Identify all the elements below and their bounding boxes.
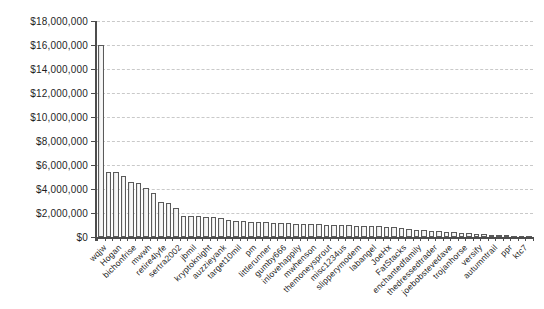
y-tick-label: $10,000,000 [0, 112, 88, 123]
bar [248, 222, 254, 237]
bar [286, 223, 292, 237]
bar [376, 226, 382, 237]
bar [354, 226, 360, 237]
bar [218, 218, 224, 237]
y-tick-label: $8,000,000 [0, 136, 88, 147]
bar [181, 216, 187, 237]
bar [233, 221, 239, 237]
gridline [97, 21, 533, 22]
gridline [97, 165, 533, 166]
bar [173, 208, 179, 237]
gridline [97, 69, 533, 70]
bar [406, 229, 412, 237]
y-tick-label: $16,000,000 [0, 40, 88, 51]
bar [106, 172, 112, 237]
bar [256, 222, 262, 237]
bar [166, 203, 172, 237]
bar [128, 182, 134, 237]
y-tick-label: $14,000,000 [0, 64, 88, 75]
gridline [97, 117, 533, 118]
bar [143, 188, 149, 237]
y-tick-label: $12,000,000 [0, 88, 88, 99]
bar [384, 227, 390, 237]
gridline [97, 141, 533, 142]
bar [421, 230, 427, 237]
bar [196, 216, 202, 237]
bar [316, 224, 322, 237]
x-axis-tick [533, 237, 534, 241]
bar [271, 223, 277, 237]
bar [346, 225, 352, 237]
bar [158, 202, 164, 237]
y-axis-line [95, 21, 97, 241]
bar [293, 224, 299, 237]
bar [211, 217, 217, 237]
bar [414, 230, 420, 237]
bar [369, 226, 375, 237]
y-tick-label: $0 [0, 232, 88, 243]
bar [278, 223, 284, 237]
bar [121, 176, 127, 237]
bar [391, 227, 397, 237]
y-tick-label: $2,000,000 [0, 208, 88, 219]
bar [188, 216, 194, 237]
bar [263, 222, 269, 237]
y-tick-label: $4,000,000 [0, 184, 88, 195]
bar [399, 228, 405, 237]
bar [331, 225, 337, 237]
bar [339, 225, 345, 237]
bar [241, 221, 247, 237]
bar [324, 225, 330, 237]
bar-chart-figure: $18,000,000$16,000,000$14,000,000$12,000… [0, 0, 544, 309]
gridline [97, 93, 533, 94]
bar [361, 226, 367, 237]
bar [151, 193, 157, 237]
gridline [97, 45, 533, 46]
y-tick-label: $18,000,000 [0, 16, 88, 27]
bar [113, 172, 119, 237]
bar [226, 220, 232, 237]
y-tick-label: $6,000,000 [0, 160, 88, 171]
bar [308, 224, 314, 237]
bar [98, 45, 104, 237]
bar [136, 183, 142, 237]
bar [203, 217, 209, 237]
gridline [97, 189, 533, 190]
bar [301, 224, 307, 237]
x-axis-line [95, 237, 533, 239]
